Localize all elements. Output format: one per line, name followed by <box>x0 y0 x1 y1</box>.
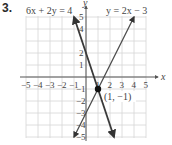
line2-label: y = 2x − 3 <box>106 5 147 16</box>
graph: xy−5−4−3−2−1123455421−1−2−3−4−56x + 2y =… <box>0 0 172 145</box>
x-tick-label: −2 <box>57 80 67 90</box>
x-tick-label: 3 <box>120 80 125 90</box>
y-tick-label: −2 <box>76 96 86 106</box>
x-tick-label: −5 <box>21 80 31 90</box>
intersection-point <box>95 86 101 92</box>
y-axis-label: y <box>82 0 88 8</box>
x-tick-label: 4 <box>132 80 137 90</box>
x-tick-label: 2 <box>108 80 113 90</box>
y-tick-label: 2 <box>79 48 84 58</box>
x-tick-label: 5 <box>144 80 149 90</box>
y-tick-label: 1 <box>79 60 84 70</box>
x-axis-label: x <box>160 71 166 82</box>
y-tick-label: −1 <box>76 84 86 94</box>
x-tick-label: −4 <box>33 80 43 90</box>
y-tick-label: −5 <box>76 132 86 142</box>
x-tick-label: −3 <box>45 80 55 90</box>
intersection-label: (1, −1) <box>104 91 131 103</box>
line1-label: 6x + 2y = 4 <box>26 5 72 16</box>
y-tick-label: 5 <box>79 12 84 22</box>
